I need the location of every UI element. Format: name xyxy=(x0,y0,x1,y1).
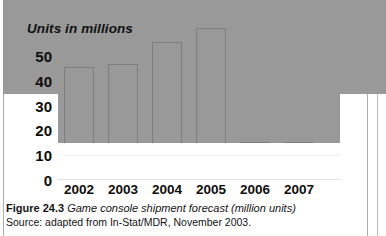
x-axis-tick-2006: 2006 xyxy=(233,183,277,197)
page-left-edge xyxy=(0,0,3,236)
x-axis-tick-2002: 2002 xyxy=(57,183,101,197)
gridline-10 xyxy=(58,155,340,156)
bar-2006[interactable] xyxy=(240,142,270,143)
y-axis-tick-50: 50 xyxy=(12,49,52,64)
page-canvas: Units in millions 50 40 30 20 10 0 2002 xyxy=(0,0,386,236)
bar-series xyxy=(58,56,340,143)
x-axis-tick-2005: 2005 xyxy=(189,183,233,197)
x-axis-tick-2004: 2004 xyxy=(145,183,189,197)
y-axis-tick-40: 40 xyxy=(12,74,52,89)
x-axis-tick-2007: 2007 xyxy=(277,183,321,197)
bar-2003[interactable] xyxy=(108,64,138,143)
bar-2007[interactable] xyxy=(284,142,314,143)
y-axis-tick-30: 30 xyxy=(12,99,52,114)
y-axis-tick-20: 20 xyxy=(12,123,52,138)
y-axis-tick-10: 10 xyxy=(12,148,52,163)
bar-2004[interactable] xyxy=(152,42,182,143)
figure-caption: Figure 24.3 Game console shipment foreca… xyxy=(6,202,366,229)
bar-2002[interactable] xyxy=(64,67,94,143)
bar-2005[interactable] xyxy=(196,28,226,143)
caption-primary-line: Figure 24.3 Game console shipment foreca… xyxy=(6,202,366,215)
chart-title: Units in millions xyxy=(27,21,133,36)
y-axis-tick-0: 0 xyxy=(12,173,52,188)
caption-figure-number: Figure 24.3 xyxy=(6,202,64,214)
caption-description: Game console shipment forecast (million … xyxy=(67,202,296,214)
x-axis-tick-2003: 2003 xyxy=(101,183,145,197)
axis-baseline xyxy=(58,179,340,180)
bar-chart: Units in millions 50 40 30 20 10 0 2002 xyxy=(0,0,386,94)
caption-source: Source: adapted from In-Stat/MDR, Novemb… xyxy=(6,216,366,229)
